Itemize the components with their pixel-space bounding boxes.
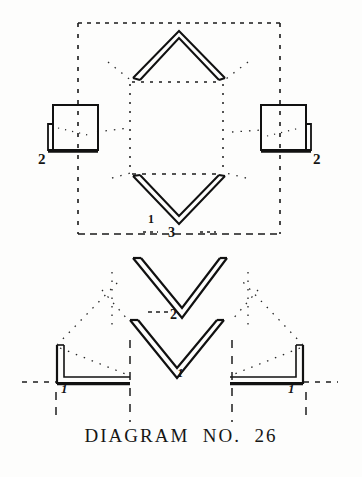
label-lower-2: 2 [170,308,177,322]
left-square-bracket [48,105,98,151]
lower-right-dotted-guides [232,272,303,375]
bottom-left-angle [22,345,130,384]
label-leader-guides [143,232,216,312]
label-tick-upper-1: 1 [148,213,154,225]
bottom-vertical-guides [56,340,306,422]
right-square-bracket [261,105,311,151]
bottom-right-angle [230,345,338,384]
lower-left-dotted-guides [57,272,128,375]
technical-diagram [0,0,362,477]
figure-caption: DIAGRAM NO. 26 [0,425,362,447]
upper-dotted-guides [97,62,262,178]
inner-dotted-rectangle [130,82,223,174]
diagram-page: 2 2 3 2 1 1 1 1 DIAGRAM NO. 26 [0,0,362,477]
top-chevron [133,31,225,80]
label-right-square-2: 2 [313,152,321,167]
label-tick-bottom-left-1: 1 [61,382,68,395]
lower-chevron-upper [133,258,227,318]
label-tick-bottom-center-1: 1 [177,366,184,379]
label-left-square-2: 2 [38,152,46,167]
middle-chevron [133,175,225,224]
outer-dashed-rectangle [78,23,280,234]
label-middle-3: 3 [168,226,175,240]
label-tick-bottom-right-1: 1 [288,382,295,395]
